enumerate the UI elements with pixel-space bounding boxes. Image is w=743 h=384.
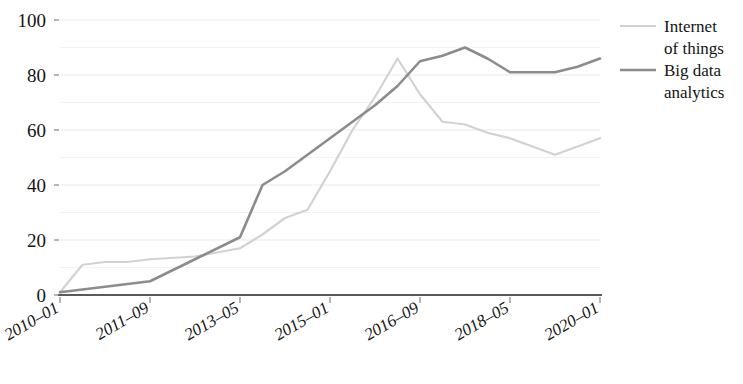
x-tick-label-2013–05: 2013–05 [181, 298, 242, 344]
x-tick-label-2018–05: 2018–05 [451, 298, 512, 344]
legend-label-1-line2: of things [664, 39, 724, 58]
x-tick-label-2020–01: 2020–01 [541, 298, 602, 344]
x-tick-label-2010–01: 2010–01 [1, 298, 62, 344]
x-tick-label-2015–01: 2015–01 [271, 298, 332, 344]
y-tick-label-100: 100 [18, 10, 47, 31]
line-chart: 020406080100 2010–012011–092013–052015–0… [0, 0, 743, 384]
y-tick-label-40: 40 [27, 175, 46, 196]
series-line-1 [60, 59, 600, 293]
y-tick-label-80: 80 [27, 65, 46, 86]
x-axis-tick-labels: 2010–012011–092013–052015–012016–092018–… [1, 298, 602, 344]
x-tick-label-2011–09: 2011–09 [92, 298, 152, 344]
legend-label-2-line1: Big data [664, 61, 722, 80]
y-tick-label-20: 20 [27, 230, 46, 251]
y-tick-label-60: 60 [27, 120, 46, 141]
grid-lines [60, 20, 600, 295]
data-series [60, 48, 600, 293]
x-tick-label-2016–09: 2016–09 [361, 298, 422, 344]
y-axis-tick-labels: 020406080100 [18, 10, 47, 306]
legend: Internetof thingsBig dataanalytics [620, 17, 724, 102]
chart-canvas: 020406080100 2010–012011–092013–052015–0… [0, 0, 743, 384]
legend-label-1-line1: Internet [664, 17, 717, 36]
legend-label-2-line2: analytics [664, 83, 724, 102]
